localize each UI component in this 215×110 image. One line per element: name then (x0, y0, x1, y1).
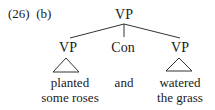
branch-root-vp-right (124, 24, 180, 38)
leaf-con-line-1: and (115, 75, 134, 90)
node-vp-right: VP (171, 41, 189, 55)
leaf-right-line-1: watered (157, 75, 203, 90)
leaf-left: planted some roses (41, 75, 98, 105)
node-con: Con (111, 41, 134, 55)
leaf-left-line-2: some roses (41, 90, 98, 105)
node-vp-left: VP (59, 41, 77, 55)
leaf-left-line-1: planted (41, 75, 98, 90)
root-node: VP (115, 8, 133, 22)
leaf-right: watered the grass (157, 75, 203, 105)
leaf-right-line-2: the grass (157, 90, 203, 105)
branch-root-vp-left (70, 24, 124, 38)
triangle-left (53, 58, 79, 72)
leaf-con: and (115, 75, 134, 90)
triangle-right (166, 58, 192, 71)
